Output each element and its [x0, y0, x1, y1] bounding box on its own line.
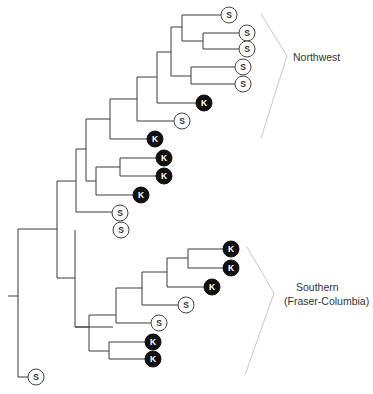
branch-line [182, 15, 203, 41]
svg-text:K: K [138, 190, 145, 200]
bracket-northwest [261, 14, 287, 138]
svg-text:K: K [228, 244, 235, 254]
branch-line [110, 99, 147, 139]
tree-leaves: SSSSSKSKKKKSSKKKSSKKS [28, 7, 255, 385]
leaf-node-k: K [145, 351, 161, 367]
svg-text:K: K [201, 98, 208, 108]
leaf-node-k: K [156, 168, 172, 184]
svg-text:S: S [156, 318, 162, 328]
svg-text:S: S [118, 225, 124, 235]
svg-text:K: K [209, 282, 216, 292]
svg-text:S: S [33, 372, 39, 382]
svg-text:K: K [152, 134, 159, 144]
group-label-southern: Southern [296, 281, 339, 293]
leaf-node-k: K [223, 241, 239, 257]
svg-text:S: S [226, 10, 232, 20]
leaf-node-k: K [156, 150, 172, 166]
branch-line [75, 230, 113, 327]
leaf-node-s: S [113, 222, 129, 238]
leaf-node-s: S [239, 25, 255, 41]
leaf-node-s: S [28, 369, 44, 385]
svg-text:K: K [228, 263, 235, 273]
leaf-node-k: K [133, 187, 149, 203]
leaf-node-k: K [145, 334, 161, 350]
group-label-northwest: Northwest [293, 51, 340, 63]
bracket-southern [245, 247, 274, 375]
branch-line [18, 229, 28, 377]
leaf-node-s: S [221, 7, 237, 23]
svg-text:K: K [161, 153, 168, 163]
branch-line [171, 27, 191, 76]
branch-line [157, 52, 196, 103]
group-label-fraser-columbia: (Fraser-Columbia) [284, 295, 369, 307]
leaf-node-k: K [223, 260, 239, 276]
branch-line [89, 315, 109, 351]
leaf-node-s: S [235, 76, 251, 92]
svg-text:S: S [244, 28, 250, 38]
leaf-node-s: S [178, 297, 194, 313]
leaf-node-s: S [235, 59, 251, 75]
svg-text:S: S [240, 79, 246, 89]
tree-branches [8, 15, 239, 377]
leaf-node-k: K [204, 279, 220, 295]
svg-text:S: S [183, 300, 189, 310]
branch-line [167, 258, 204, 287]
svg-text:S: S [117, 208, 123, 218]
branch-line [137, 77, 174, 121]
svg-text:S: S [179, 116, 185, 126]
svg-text:S: S [240, 62, 246, 72]
leaf-node-s: S [174, 113, 190, 129]
leaf-node-s: S [151, 315, 167, 331]
svg-text:K: K [161, 171, 168, 181]
leaf-node-k: K [147, 131, 163, 147]
svg-text:K: K [150, 354, 157, 364]
branch-line [96, 167, 133, 195]
branch-line [86, 119, 96, 181]
svg-text:S: S [244, 44, 250, 54]
leaf-node-s: S [112, 205, 128, 221]
leaf-node-k: K [196, 95, 212, 111]
svg-text:K: K [150, 337, 157, 347]
branch-line [142, 272, 178, 305]
leaf-node-s: S [239, 41, 255, 57]
